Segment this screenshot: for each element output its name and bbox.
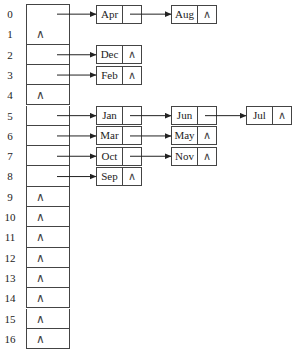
hash-table-diagram: 0AprAug∧1∧2Dec∧3Feb∧4∧5JanJunJul∧6MarMay… [0,0,294,358]
pointer-arrows [0,0,294,358]
